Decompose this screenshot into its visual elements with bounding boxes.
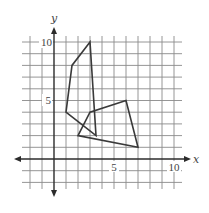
x-axis-right-arrow-icon	[184, 156, 191, 162]
coordinate-plane: y x 10 5 5 10	[0, 0, 209, 213]
y-tick-label-5: 5	[46, 94, 52, 106]
x-tick-label-5: 5	[111, 161, 117, 173]
y-axis-down-arrow-icon	[51, 190, 57, 197]
y-axis-up-arrow-icon	[51, 27, 57, 34]
grid-lines	[22, 36, 182, 189]
x-axis-left-arrow-icon	[14, 156, 21, 162]
x-tick-label-10: 10	[169, 161, 181, 173]
x-axis-label: x	[193, 153, 200, 166]
y-axis-label: y	[50, 12, 58, 25]
y-tick-label-10: 10	[41, 36, 53, 48]
